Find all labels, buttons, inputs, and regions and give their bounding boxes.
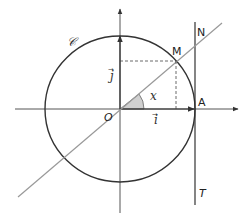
- point-a-label: A: [198, 96, 206, 109]
- trig-circle-diagram: 𝒞 O A M N T x i → j →: [0, 0, 246, 219]
- tangent-label: T: [199, 187, 207, 200]
- point-m-label: M: [172, 45, 182, 58]
- angle-label: x: [150, 89, 157, 103]
- vector-j-arrow: →: [108, 66, 114, 74]
- vector-i-arrow: →: [152, 111, 158, 119]
- origin-label: O: [104, 111, 113, 124]
- circle-label: 𝒞: [67, 35, 79, 49]
- point-n-label: N: [197, 26, 205, 39]
